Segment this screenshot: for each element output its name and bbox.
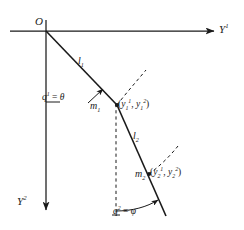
rod-l2-subscript: 2: [136, 136, 139, 143]
axis-y1-superscript: 1: [225, 22, 228, 29]
coords-m1-second-subscript: 1: [140, 105, 143, 111]
mass-m1-subscript: 1: [97, 106, 100, 113]
angle-q1-equals: =: [50, 92, 60, 102]
angle-q1-label: q1 = θ: [42, 93, 64, 103]
mass-m2-coordinates-label: (y21, y22): [150, 168, 181, 178]
angle-q2-equals: =: [121, 206, 131, 216]
rod-l2-line: [117, 105, 166, 216]
rod-l1-subscript: 1: [81, 61, 84, 68]
figure-drawing-canvas: [0, 0, 244, 230]
origin-label: O: [35, 16, 43, 27]
coords-m1-first-subscript: 1: [125, 105, 128, 111]
rod-l2-label: l2: [133, 131, 139, 141]
mass-m2-subscript: 2: [142, 174, 145, 181]
mass-m1-label: m1: [90, 101, 100, 111]
coords-m1-close-paren: ): [146, 99, 149, 109]
coords-m2-first-subscript: 2: [157, 173, 160, 179]
mass-m1-coordinates-label: (y11, y12): [118, 100, 149, 110]
axis-y2-superscript: 2: [23, 194, 26, 201]
axis-label-y2: Y2: [17, 196, 27, 207]
angle-q2-symbol: φ: [131, 206, 136, 216]
rod-l1-label: l1: [78, 56, 84, 66]
mass-m2-label: m2: [135, 169, 145, 179]
angle-q1-symbol: θ: [60, 92, 65, 102]
angle-q2-label: q2 = φ: [113, 207, 136, 217]
axis-label-y1: Y1: [219, 24, 229, 35]
coords-m2-close-paren: ): [178, 167, 181, 177]
coords-m2-second-subscript: 2: [172, 173, 175, 179]
double-pendulum-figure: O Y1 Y2 l1 l2 m1 m2 (y11, y12) (y21, y22…: [0, 0, 244, 230]
